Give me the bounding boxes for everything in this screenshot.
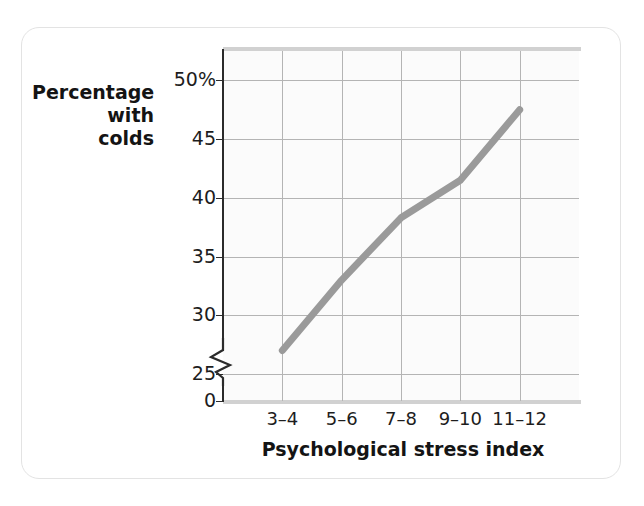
y-axis-tick-mark [216,198,223,199]
y-axis-title: Percentage with colds [32,81,154,151]
y-axis-tick-label: 35 [154,247,216,266]
x-axis-tick-label: 11–12 [492,410,547,428]
figure-card: 50%45403530250 Percentage with colds 3–4… [21,27,621,479]
y-axis-tick-mark [216,139,223,140]
x-axis-tick-label: 5–6 [326,410,358,428]
y-axis-tick-mark [216,401,223,402]
chart-area: 50%45403530250 Percentage with colds 3–4… [22,28,620,478]
x-axis-tick-labels: 3–45–67–89–1011–12 [223,410,583,436]
y-axis-title-line-2: with [32,104,154,127]
y-axis-tick-mark [216,315,223,316]
x-axis-title: Psychological stress index [198,440,608,459]
y-axis-tick-label: 50% [154,70,216,89]
y-axis-tick-label: 40 [154,188,216,207]
y-axis-tick-label: 0 [154,391,216,410]
y-axis-title-line-1: Percentage [32,81,154,104]
y-axis-tick-mark [216,257,223,258]
data-series-line [223,51,579,401]
x-axis-tick-label: 9–10 [439,410,482,428]
y-axis-tick-label: 45 [154,129,216,148]
y-axis-tick-label: 25 [154,364,216,383]
y-axis-title-line-3: colds [32,127,154,150]
y-axis-tick-label: 30 [154,305,216,324]
x-axis-tick-label: 7–8 [385,410,417,428]
x-axis-tick-label: 3–4 [266,410,298,428]
y-axis-tick-mark [216,80,223,81]
